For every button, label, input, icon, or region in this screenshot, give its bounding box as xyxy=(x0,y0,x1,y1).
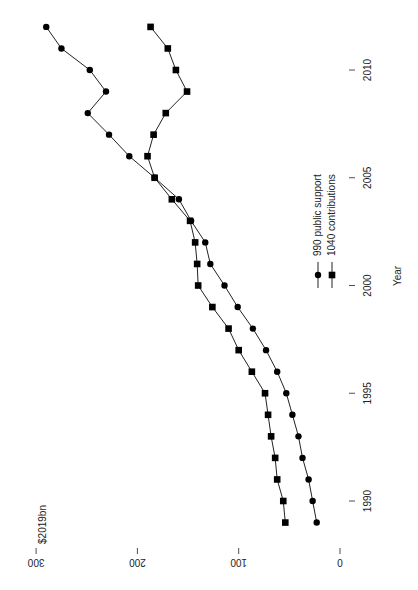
square-marker-icon xyxy=(282,519,289,526)
circle-marker-icon xyxy=(58,45,64,51)
square-marker-icon xyxy=(173,67,180,74)
square-marker-icon xyxy=(235,347,242,354)
square-marker-icon xyxy=(274,476,281,483)
circle-marker-icon xyxy=(126,153,132,159)
value-tick-label: 100 xyxy=(230,557,247,568)
circle-marker-icon xyxy=(207,261,213,267)
rotated-line-chart: 0100200300$2019bn 19901995200020052010Ye… xyxy=(0,0,418,590)
series-990-line xyxy=(46,27,316,523)
square-marker-icon xyxy=(268,433,275,440)
circle-marker-icon xyxy=(85,110,91,116)
square-marker-icon xyxy=(194,261,201,268)
square-marker-icon xyxy=(162,110,169,117)
year-tick-label: 2010 xyxy=(362,58,373,81)
square-marker-icon xyxy=(209,304,216,311)
year-axis-label: Year xyxy=(392,265,403,286)
circle-marker-icon xyxy=(283,390,289,396)
square-marker-icon xyxy=(150,131,157,138)
value-tick-label: 200 xyxy=(129,557,146,568)
value-axis: 0100200300$2019bn xyxy=(27,505,342,568)
legend-label: 1040 contributions xyxy=(326,174,337,256)
year-axis: 19901995200020052010Year xyxy=(349,58,403,512)
year-tick-label: 1995 xyxy=(362,382,373,405)
circle-marker-icon xyxy=(87,67,93,73)
circle-marker-icon xyxy=(106,131,112,137)
square-marker-icon xyxy=(192,239,199,246)
square-marker-icon xyxy=(225,325,232,332)
square-marker-icon xyxy=(262,390,269,397)
year-tick-label: 1990 xyxy=(362,489,373,512)
legend-label: 990 public support xyxy=(312,174,323,256)
year-tick-label: 2005 xyxy=(362,166,373,189)
year-tick-label: 2000 xyxy=(362,274,373,297)
circle-marker-icon xyxy=(274,369,280,375)
circle-marker-icon xyxy=(202,239,208,245)
square-marker-icon xyxy=(280,498,287,505)
square-marker-icon xyxy=(147,24,154,31)
value-tick-label: 0 xyxy=(337,557,343,568)
circle-marker-icon xyxy=(299,455,305,461)
square-marker-icon xyxy=(272,455,279,462)
circle-marker-icon xyxy=(289,412,295,418)
series-1040-line xyxy=(148,27,286,523)
circle-marker-icon xyxy=(250,325,256,331)
series-group xyxy=(43,24,320,526)
legend-square-icon xyxy=(329,272,336,279)
circle-marker-icon xyxy=(295,433,301,439)
square-marker-icon xyxy=(195,282,202,289)
square-marker-icon xyxy=(187,218,194,225)
circle-marker-icon xyxy=(103,88,109,94)
circle-marker-icon xyxy=(234,304,240,310)
value-tick-label: 300 xyxy=(27,557,44,568)
square-marker-icon xyxy=(164,45,171,52)
legend: 990 public support1040 contributions xyxy=(312,174,337,288)
circle-marker-icon xyxy=(309,498,315,504)
square-marker-icon xyxy=(265,412,272,419)
legend-circle-icon xyxy=(315,272,321,278)
value-axis-label: $2019bn xyxy=(37,505,48,544)
circle-marker-icon xyxy=(176,196,182,202)
circle-marker-icon xyxy=(43,24,49,30)
circle-marker-icon xyxy=(305,476,311,482)
circle-marker-icon xyxy=(221,282,227,288)
circle-marker-icon xyxy=(314,519,320,525)
circle-marker-icon xyxy=(263,347,269,353)
square-marker-icon xyxy=(151,174,158,181)
square-marker-icon xyxy=(184,88,191,95)
square-marker-icon xyxy=(249,368,256,375)
square-marker-icon xyxy=(144,153,151,160)
square-marker-icon xyxy=(169,196,176,203)
